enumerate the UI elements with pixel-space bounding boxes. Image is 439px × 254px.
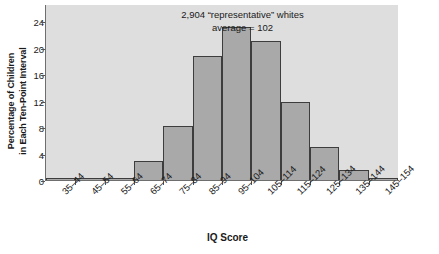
x-axis-tick-label: 85–94 <box>206 170 232 196</box>
x-axis-tick-label: 35–44 <box>60 170 86 196</box>
x-axis-title: IQ Score <box>0 232 439 243</box>
x-axis-tick-label: 55–64 <box>118 170 144 196</box>
x-axis-tick-label: 45–54 <box>89 170 115 196</box>
x-axis-tick-label: 105–114 <box>265 163 298 196</box>
x-axis-title-text: IQ Score <box>207 232 248 243</box>
x-axis-tick-label: 95–104 <box>236 167 266 197</box>
x-axis-tick-label: 75–84 <box>177 170 203 196</box>
x-axis-tick-label: 125–134 <box>324 163 358 197</box>
x-axis-tick-label: 145–154 <box>382 163 416 197</box>
x-axis-tick-labels: 35–4445–5455–6465–7475–8485–9495–104105–… <box>0 0 439 254</box>
histogram-figure: Percentage of Children in Each Ten-Point… <box>0 0 439 254</box>
x-axis-tick-label: 65–74 <box>148 170 174 196</box>
x-axis-tick-label: 115–124 <box>294 163 327 196</box>
x-axis-tick-label: 135–144 <box>353 163 387 197</box>
